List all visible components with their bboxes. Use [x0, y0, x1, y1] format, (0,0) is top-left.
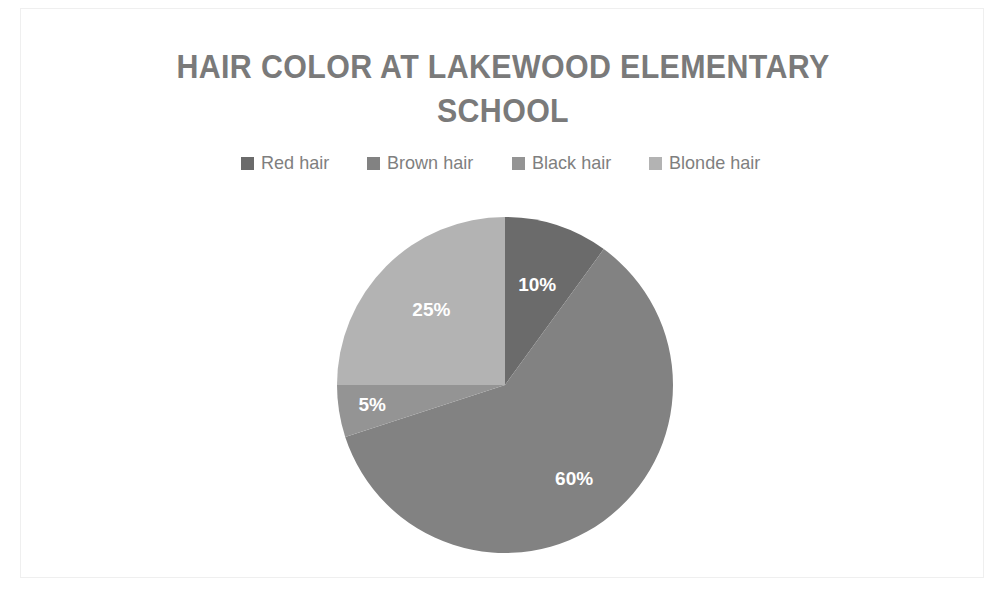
- legend-label-brown-hair: Brown hair: [387, 152, 473, 174]
- legend-label-red-hair: Red hair: [261, 152, 329, 174]
- pie-chart-svg: 10% 60% 5% 25%: [337, 217, 673, 553]
- legend-swatch-red-hair: [241, 157, 254, 170]
- legend-label-blonde-hair: Blonde hair: [669, 152, 760, 174]
- legend-item-black-hair[interactable]: Black hair: [512, 152, 615, 174]
- legend-item-red-hair[interactable]: Red hair: [241, 152, 333, 174]
- pie-label-black-hair: 5%: [359, 394, 387, 415]
- legend-item-blonde-hair[interactable]: Blonde hair: [649, 152, 765, 174]
- chart-title: HAIR COLOR AT LAKEWOOD ELEMENTARY SCHOOL: [115, 45, 891, 133]
- legend-swatch-black-hair: [512, 157, 525, 170]
- pie-slices: [337, 217, 673, 553]
- chart-title-line-1: HAIR COLOR AT LAKEWOOD ELEMENTARY: [176, 48, 829, 85]
- pie-label-red-hair: 10%: [518, 274, 556, 295]
- pie-label-brown-hair: 60%: [555, 468, 593, 489]
- pie-chart: 10% 60% 5% 25%: [337, 217, 673, 553]
- pie-label-blonde-hair: 25%: [412, 299, 450, 320]
- chart-title-line-2: SCHOOL: [437, 92, 569, 129]
- legend-swatch-blonde-hair: [649, 157, 662, 170]
- legend-item-brown-hair[interactable]: Brown hair: [367, 152, 478, 174]
- legend-label-black-hair: Black hair: [532, 152, 611, 174]
- chart-legend: Red hair Brown hair Black hair Blonde ha…: [0, 152, 1006, 174]
- legend-swatch-brown-hair: [367, 157, 380, 170]
